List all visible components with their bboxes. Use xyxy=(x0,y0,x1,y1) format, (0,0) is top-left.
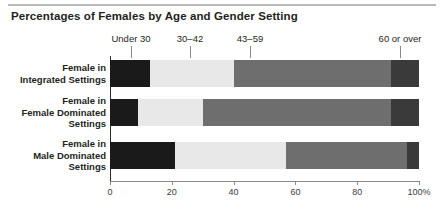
bar-segment xyxy=(110,99,138,126)
plot-area xyxy=(110,56,419,180)
legend-label: Under 30 xyxy=(111,33,150,44)
legend-label: 43–59 xyxy=(237,33,263,44)
x-tick-label: 80 xyxy=(352,187,362,197)
category-label: Female inIntegrated Settings xyxy=(2,62,106,85)
x-tick-label: 40 xyxy=(229,187,239,197)
bar-segment xyxy=(138,99,203,126)
category-label-line: Integrated Settings xyxy=(2,74,106,86)
x-tick-label: 0 xyxy=(107,187,112,197)
x-tick xyxy=(234,181,235,185)
bar-segment xyxy=(110,60,150,87)
bar-segment xyxy=(407,142,419,169)
x-tick-label: 20 xyxy=(167,187,177,197)
category-label: Female inFemale DominatedSettings xyxy=(2,95,106,130)
bar-segment xyxy=(175,142,286,169)
category-label: Female inMale DominatedSettings xyxy=(2,138,106,173)
bar-row xyxy=(110,60,419,87)
chart-title: Percentages of Females by Age and Gender… xyxy=(11,10,298,22)
bar-segment xyxy=(391,99,419,126)
bar-row xyxy=(110,142,419,169)
x-axis-line xyxy=(110,181,420,182)
legend-label: 60 or over xyxy=(379,33,422,44)
bar-segment xyxy=(110,142,175,169)
category-label-line: Female in xyxy=(2,62,106,74)
stacked-bar xyxy=(110,60,419,87)
category-label-line: Settings xyxy=(2,118,106,130)
x-tick-label: 60 xyxy=(290,187,300,197)
bar-segment xyxy=(286,142,407,169)
legend-label: 30–42 xyxy=(177,33,203,44)
x-tick xyxy=(419,181,420,185)
x-tick xyxy=(110,181,111,185)
bar-segment xyxy=(203,99,391,126)
stacked-bar xyxy=(110,142,419,169)
header-rule xyxy=(8,4,436,6)
category-label-line: Female in xyxy=(2,138,106,150)
stacked-bar xyxy=(110,99,419,126)
x-tick xyxy=(357,181,358,185)
category-label-line: Female in xyxy=(2,95,106,107)
bar-segment xyxy=(391,60,419,87)
category-label-line: Female Dominated xyxy=(2,107,106,119)
x-tick xyxy=(295,181,296,185)
bar-segment xyxy=(234,60,392,87)
category-label-line: Settings xyxy=(2,161,106,173)
bar-segment xyxy=(150,60,233,87)
x-tick-label: 100% xyxy=(407,187,430,197)
category-label-line: Male Dominated xyxy=(2,150,106,162)
x-tick xyxy=(172,181,173,185)
bar-row xyxy=(110,99,419,126)
